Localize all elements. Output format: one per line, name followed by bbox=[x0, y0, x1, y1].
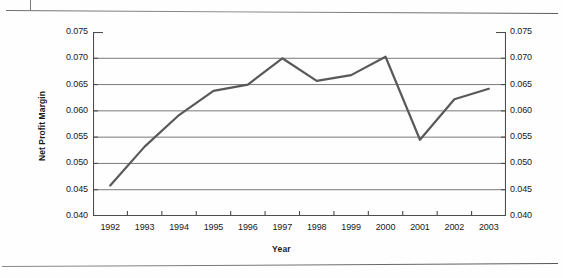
x-axis-tick-label: 2001 bbox=[410, 222, 430, 232]
x-axis-tick-label: 1995 bbox=[204, 222, 224, 232]
x-axis-tick-label: 1999 bbox=[341, 222, 361, 232]
x-axis-tick-label: 2002 bbox=[445, 222, 465, 232]
y-axis-right-tick-label: 0.065 bbox=[510, 79, 554, 89]
y-axis-left-tick-label: 0.050 bbox=[48, 157, 88, 167]
plot-area bbox=[93, 32, 506, 216]
page-rule-bottom bbox=[2, 263, 558, 267]
y-axis-right-tick-label: 0.050 bbox=[510, 157, 554, 167]
y-axis-left-tick-label: 0.075 bbox=[48, 26, 88, 36]
x-axis-tick-label: 1998 bbox=[307, 222, 327, 232]
x-axis-title: Year bbox=[0, 244, 563, 254]
scanned-page: Net Profit Margin 0.0750.0700.0650.0600.… bbox=[0, 0, 563, 278]
x-axis-tick-label: 1996 bbox=[238, 222, 258, 232]
data-series-line bbox=[110, 57, 489, 186]
y-axis-right-tick-label: 0.045 bbox=[510, 184, 554, 194]
y-axis-right-tick-labels: 0.0750.0700.0650.0600.0550.0500.0450.040 bbox=[510, 14, 554, 262]
y-axis-right-tick-label: 0.040 bbox=[510, 210, 554, 220]
y-axis-left-tick-label: 0.065 bbox=[48, 79, 88, 89]
x-axis-tick-label: 1994 bbox=[169, 222, 189, 232]
y-axis-left-tick-label: 0.045 bbox=[48, 184, 88, 194]
y-axis-right-tick-label: 0.070 bbox=[510, 52, 554, 62]
y-axis-left-tick-label: 0.070 bbox=[48, 52, 88, 62]
x-axis-tick-label: 1992 bbox=[100, 222, 120, 232]
y-axis-left-tick-label: 0.055 bbox=[48, 131, 88, 141]
x-axis-tick-labels: 1992199319941995199619971998199920002001… bbox=[93, 222, 506, 238]
y-axis-left-tick-label: 0.060 bbox=[48, 105, 88, 115]
x-axis-tick-label: 2003 bbox=[479, 222, 499, 232]
x-axis-tick-label: 2000 bbox=[376, 222, 396, 232]
y-axis-right-tick-label: 0.055 bbox=[510, 131, 554, 141]
chart-plot-svg bbox=[93, 32, 506, 216]
y-axis-left-tick-label: 0.040 bbox=[48, 210, 88, 220]
x-axis-tick-label: 1993 bbox=[135, 222, 155, 232]
gridlines bbox=[93, 58, 506, 189]
y-axis-right-tick-label: 0.075 bbox=[510, 26, 554, 36]
y-axis-tick-marks bbox=[93, 32, 506, 216]
page-rule-top-tick bbox=[30, 0, 31, 11]
y-axis-left-tick-labels: 0.0750.0700.0650.0600.0550.0500.0450.040 bbox=[48, 14, 88, 262]
y-axis-title-text: Net Profit Margin bbox=[37, 91, 47, 161]
line-chart-figure: Net Profit Margin 0.0750.0700.0650.0600.… bbox=[0, 14, 563, 262]
x-axis-title-text: Year bbox=[272, 244, 291, 254]
x-axis-tick-label: 1997 bbox=[272, 222, 292, 232]
axis-lines bbox=[93, 32, 506, 216]
y-axis-right-tick-label: 0.060 bbox=[510, 105, 554, 115]
